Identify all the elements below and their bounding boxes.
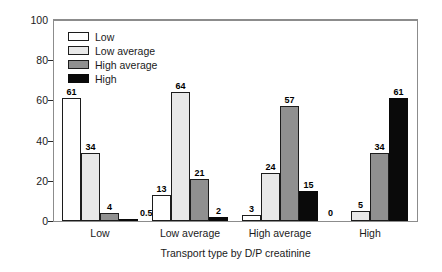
bar-value-label: 0	[328, 208, 333, 218]
bar-label-anchor: 61	[62, 98, 81, 221]
bar-value-label: 5	[358, 200, 363, 210]
x-axis-title: Transport type by D/P creatinine	[53, 247, 418, 259]
y-axis-tick-mark	[48, 100, 53, 101]
bar-value-label: 34	[374, 142, 384, 152]
y-axis-tick-label: 80	[22, 55, 48, 65]
bar-label-anchor: 57	[280, 106, 299, 221]
y-axis-tick-mark	[48, 181, 53, 182]
legend-item-high: High	[68, 72, 188, 85]
bar-chart-figure: Percentage of patients 020406080100 6134…	[0, 0, 442, 272]
y-axis-tick-label: 0	[22, 216, 48, 226]
bar-value-label: 21	[194, 168, 204, 178]
bar-value-label: 61	[66, 87, 76, 97]
legend-label-high: High	[95, 73, 117, 85]
bar-label-anchor: 34	[81, 153, 100, 221]
y-axis-tick-labels: 020406080100	[20, 0, 48, 272]
bar-value-label: 15	[303, 180, 313, 190]
legend-label-low: Low	[95, 31, 114, 43]
bar-value-label: 3	[249, 204, 254, 214]
y-axis-title: Percentage of patients	[0, 0, 14, 47]
bar-label-anchor: 34	[370, 153, 389, 221]
legend-swatch-low-average-icon	[68, 46, 89, 55]
bar-value-label: 0.5	[140, 208, 153, 218]
bar-label-anchor: 3	[242, 215, 261, 221]
legend-item-low-average: Low average	[68, 44, 188, 57]
y-axis-tick-label: 40	[22, 136, 48, 146]
legend-label-low-average: Low average	[95, 45, 155, 57]
bar-label-anchor: 5	[351, 211, 370, 221]
bar-value-label: 24	[265, 162, 275, 172]
bar-value-label: 34	[85, 142, 95, 152]
bar-label-anchor: 15	[299, 191, 318, 221]
x-axis-tick-label: High average	[249, 227, 311, 239]
x-axis-tick-label: Low	[90, 227, 109, 239]
bar-label-anchor: 0	[332, 219, 351, 221]
y-axis-tick-mark	[48, 221, 53, 222]
bar-value-label: 4	[107, 202, 112, 212]
legend-item-high-average: High average	[68, 58, 188, 71]
bar-label-anchor: 21	[190, 179, 209, 221]
y-axis-tick-mark	[48, 60, 53, 61]
bar-label-anchor: 0.5	[119, 219, 138, 221]
bar-value-label: 57	[284, 95, 294, 105]
legend-swatch-high-average-icon	[68, 60, 89, 69]
bar-value-label: 61	[393, 87, 403, 97]
bar-label-anchor: 2	[209, 217, 228, 221]
bar-label-anchor: 4	[100, 213, 119, 221]
bar-value-label: 2	[216, 206, 221, 216]
legend-swatch-high-icon	[68, 74, 89, 83]
y-axis-tick-label: 20	[22, 176, 48, 186]
y-axis-tick-mark	[48, 141, 53, 142]
bar-label-anchor: 61	[389, 98, 408, 221]
legend-item-low: Low	[68, 30, 188, 43]
bar-label-anchor: 24	[261, 173, 280, 221]
bar-label-anchor: 13	[152, 195, 171, 221]
bar-label-anchor: 64	[171, 92, 190, 221]
legend-label-high-average: High average	[95, 59, 157, 71]
x-axis-tick-label: High	[359, 227, 381, 239]
legend-swatch-low-icon	[68, 32, 89, 41]
x-axis-tick-label: Low average	[160, 227, 220, 239]
y-axis-tick-label: 60	[22, 95, 48, 105]
y-axis-tick-label: 100	[22, 15, 48, 25]
chart-legend: Low Low average High average High	[68, 30, 188, 86]
bar-value-label: 13	[156, 184, 166, 194]
